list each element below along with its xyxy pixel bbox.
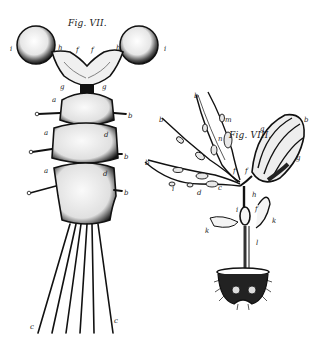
fig7-label-b: b — [124, 190, 128, 197]
fig7-label-a: a — [44, 130, 48, 137]
fig7-label-b: b — [124, 154, 128, 161]
fig8-label-f: f — [255, 206, 258, 213]
fig7-label-b: b — [128, 113, 132, 120]
fig8-label-b: b — [145, 160, 149, 167]
fig8-label-k: k — [272, 218, 276, 225]
left-sphere — [17, 26, 55, 64]
fig7-drawing — [17, 26, 158, 333]
fig8-label-n: n — [218, 136, 223, 143]
fig7-label-f: f — [91, 47, 94, 54]
fig8-label-b: b — [159, 117, 163, 124]
fig8-label-c: c — [218, 185, 222, 192]
fig8-drawing — [145, 92, 304, 310]
fig7-label-c: c — [114, 318, 118, 325]
fig7-label-f: f — [76, 47, 79, 54]
fig7-label-c: c — [30, 324, 34, 331]
fig8-label-k: k — [205, 228, 209, 235]
fig7-label-h: h — [116, 45, 121, 52]
fig8-label-g: g — [260, 126, 264, 133]
fig8-label-d: d — [197, 190, 201, 197]
fig7-label-g: g — [102, 84, 106, 91]
fig8-label-i: i — [172, 186, 174, 193]
engraving-plate: Fig. VII. Fig. VIII. ihffhiggabadbadbccb… — [0, 0, 324, 353]
fig8-label-f: f — [245, 168, 248, 175]
fig7-label-h: h — [58, 45, 63, 52]
fig8-label-h: h — [252, 192, 257, 199]
fig8-label-m: m — [225, 117, 232, 124]
fig7-label-a: a — [52, 97, 56, 104]
fig7-label-d: d — [104, 132, 108, 139]
fig8-title: Fig. VIII. — [229, 130, 272, 140]
fig7-label-a: a — [44, 168, 48, 175]
right-sphere — [120, 26, 158, 64]
fig7-label-i: i — [164, 46, 166, 53]
fig8-label-b: b — [194, 93, 198, 100]
fig7-label-d: d — [103, 171, 107, 178]
fig8-label-b: b — [304, 117, 308, 124]
fig8-label-l: l — [256, 240, 258, 247]
plate-drawing — [0, 0, 324, 353]
fig8-label-g: g — [296, 155, 300, 162]
fig8-label-f: f — [233, 168, 236, 175]
fig7-label-i: i — [10, 46, 12, 53]
fig7-label-g: g — [60, 84, 64, 91]
fig7-title: Fig. VII. — [68, 18, 107, 28]
fig8-label-i: i — [236, 207, 238, 214]
